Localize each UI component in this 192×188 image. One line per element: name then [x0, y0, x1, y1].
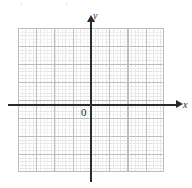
y-axis-label: y	[93, 11, 97, 21]
x-axis-label: x	[183, 100, 187, 110]
y-axis-line	[90, 22, 92, 182]
x-axis-arrowhead-icon	[176, 100, 183, 108]
scan-artifact-right	[66, 2, 67, 6]
scan-artifact-left	[21, 2, 22, 6]
coordinate-grid-figure: x y 0	[0, 0, 192, 188]
x-axis-line	[8, 104, 178, 106]
origin-label: 0	[81, 107, 87, 118]
